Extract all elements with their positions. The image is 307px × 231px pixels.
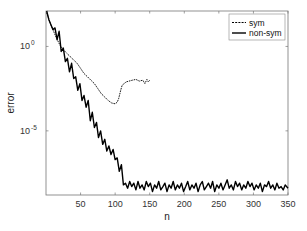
x-axis-label: n [164,211,170,222]
x-tick-label: 50 [76,199,86,209]
y-tick-exponent: 0 [31,39,35,46]
y-tick-label: 10 [20,41,30,51]
y-axis-label: error [5,92,16,114]
error-vs-n-chart: 50100150200250300350 10010-5 n error sym… [0,0,307,231]
x-tick-label: 150 [142,199,157,209]
x-tick-label: 200 [177,199,192,209]
x-tick-label: 300 [246,199,261,209]
y-tick-label: 10 [20,126,30,136]
legend: sym non-sym [229,14,285,40]
legend-non-sym-label: non-sym [249,28,282,38]
x-tick-label: 350 [280,199,295,209]
x-tick-label: 100 [108,199,123,209]
legend-sym-label: sym [249,18,265,28]
y-tick-exponent: -5 [31,124,37,131]
x-tick-label: 250 [211,199,226,209]
